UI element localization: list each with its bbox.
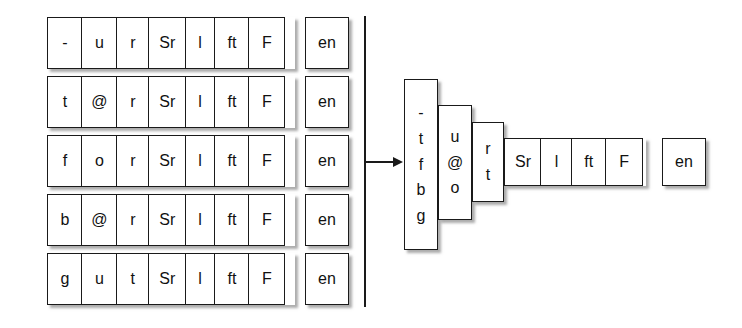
stack-glyph: r	[485, 136, 490, 162]
row-cell: F	[248, 17, 285, 69]
row-cell: ft	[214, 76, 250, 128]
disjunction-stack: r t	[472, 122, 504, 202]
suffix-cell: Sr	[504, 138, 542, 186]
row-cell: ft	[214, 194, 250, 246]
stack-glyph: @	[447, 150, 463, 176]
row-cell: F	[248, 76, 285, 128]
row-cell: f	[47, 135, 83, 187]
row-cell: o	[81, 135, 117, 187]
row-tag-box: en	[305, 76, 349, 128]
input-row: b @ r Sr l ft F	[47, 194, 295, 246]
row-cell: Sr	[148, 253, 186, 305]
row-cell: Sr	[148, 76, 186, 128]
stack-glyph: t	[419, 126, 423, 152]
row-cell: r	[116, 76, 150, 128]
disjunction-stack: u @ o	[438, 105, 472, 220]
lattice-merge-diagram: - u r Sr l ft F en t @ r Sr l ft F en f …	[0, 0, 742, 328]
row-cell: @	[81, 194, 117, 246]
stack-glyph: -	[418, 100, 423, 126]
row-cell: l	[185, 135, 216, 187]
input-row: f o r Sr l ft F	[47, 135, 295, 187]
row-cell: u	[81, 253, 117, 305]
row-cell: F	[248, 253, 285, 305]
row-tag-box: en	[305, 135, 349, 187]
row-cell: g	[47, 253, 83, 305]
input-row: - u r Sr l ft F	[47, 17, 295, 69]
disjunction-stack: - t f b g	[404, 79, 438, 250]
row-cell: l	[185, 76, 216, 128]
row-cell: F	[248, 194, 285, 246]
row-cell: r	[116, 17, 150, 69]
shared-suffix-row: Sr l ft F	[504, 138, 646, 186]
input-row: g u t Sr l ft F	[47, 253, 295, 305]
row-cell: ft	[214, 135, 250, 187]
row-cell: t	[116, 253, 150, 305]
row-cell: -	[47, 17, 83, 69]
merge-arrow-shaft	[366, 161, 395, 163]
row-cell: t	[47, 76, 83, 128]
stack-glyph: t	[486, 162, 490, 188]
merge-arrow-head	[393, 157, 403, 167]
row-cell: l	[185, 17, 216, 69]
row-cell: Sr	[148, 135, 186, 187]
stack-glyph: o	[451, 175, 460, 201]
output-tag-box: en	[662, 138, 706, 186]
row-cell: b	[47, 194, 83, 246]
stack-glyph: g	[417, 203, 426, 229]
stack-glyph: u	[451, 124, 460, 150]
row-cell: r	[116, 194, 150, 246]
suffix-cell: l	[540, 138, 572, 186]
row-cell: u	[81, 17, 117, 69]
row-cell: l	[185, 253, 216, 305]
row-cell: ft	[214, 253, 250, 305]
row-tag-box: en	[305, 17, 349, 69]
stack-glyph: b	[417, 177, 426, 203]
row-tag-box: en	[305, 194, 349, 246]
row-cell: ft	[214, 17, 250, 69]
stack-glyph: f	[419, 152, 423, 178]
suffix-cell: F	[605, 138, 643, 186]
row-cell: Sr	[148, 194, 186, 246]
row-cell: l	[185, 194, 216, 246]
row-cell: Sr	[148, 17, 186, 69]
input-row: t @ r Sr l ft F	[47, 76, 295, 128]
row-tag-box: en	[305, 253, 349, 305]
row-cell: @	[81, 76, 117, 128]
suffix-cell: ft	[571, 138, 607, 186]
row-cell: r	[116, 135, 150, 187]
row-cell: F	[248, 135, 285, 187]
